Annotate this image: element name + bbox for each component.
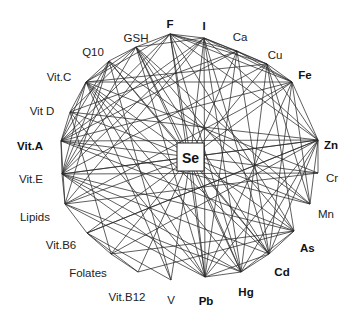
node-label-cd: Cd xyxy=(274,266,289,278)
node-label-vit-a: Vit.A xyxy=(17,140,43,152)
node-label-lipids: Lipids xyxy=(20,211,50,223)
node-label-q10: Q10 xyxy=(82,46,104,58)
interaction-network-diagram: FICaCuFeZnCrMnAsCdHgPbVVit.B12FolatesVit… xyxy=(0,0,353,318)
edge xyxy=(241,254,269,272)
node-label-mn: Mn xyxy=(318,208,334,220)
node-label-i: I xyxy=(202,20,205,32)
node-label-gsh: GSH xyxy=(124,32,149,44)
node-label-vit-b6: Vit.B6 xyxy=(46,239,76,251)
node-label-cu: Cu xyxy=(268,49,283,61)
edge xyxy=(62,174,294,231)
hub-node-se: Se xyxy=(177,143,204,171)
node-label-vit-d: Vit D xyxy=(30,105,55,117)
node-label-as: As xyxy=(300,242,315,254)
node-label-f: F xyxy=(166,18,173,30)
hub-edge xyxy=(191,157,206,277)
node-label-vit-e: Vit.E xyxy=(19,173,43,185)
node-label-ca: Ca xyxy=(233,31,248,43)
node-label-vit-c: Vit.C xyxy=(47,71,72,83)
node-label-hg: Hg xyxy=(238,286,253,298)
node-label-vit-b12: Vit.B12 xyxy=(109,291,146,303)
edge xyxy=(65,173,318,204)
edge xyxy=(205,272,241,277)
node-label-cr: Cr xyxy=(326,172,338,184)
edge xyxy=(204,38,269,254)
edge xyxy=(62,82,86,174)
node-label-folates: Folates xyxy=(69,267,107,279)
node-label-v: V xyxy=(167,294,175,306)
edge xyxy=(61,141,62,174)
edge xyxy=(87,233,111,254)
edge xyxy=(267,64,292,82)
node-label-fe: Fe xyxy=(298,69,311,81)
hub-edge xyxy=(191,51,238,157)
edge xyxy=(138,231,294,272)
hub-label: Se xyxy=(182,150,199,166)
network-canvas: FICaCuFeZnCrMnAsCdHgPbVVit.B12FolatesVit… xyxy=(0,0,353,318)
edge xyxy=(70,82,86,112)
edge xyxy=(170,34,318,140)
node-label-pb: Pb xyxy=(199,295,214,307)
node-label-zn: Zn xyxy=(324,139,338,151)
